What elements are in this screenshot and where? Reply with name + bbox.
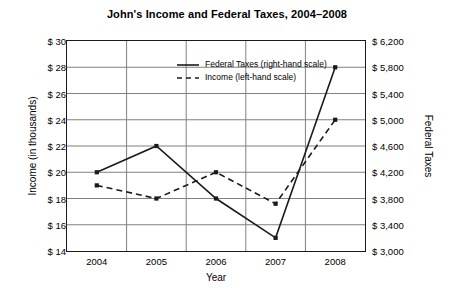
series-line-federal-taxes: [97, 67, 335, 238]
chart-legend: Federal Taxes (right-hand scale)Income (…: [176, 58, 327, 84]
dashed-line-icon: [176, 73, 200, 83]
y-axis-left-tick-label: $ 26: [6, 88, 66, 99]
y-axis-right-tick-label: $ 5,800: [372, 62, 434, 73]
data-point: [214, 170, 218, 174]
y-axis-left-tick-label: $ 30: [6, 36, 66, 47]
x-axis-tick-label: 2008: [305, 256, 365, 267]
x-axis-tick-label: 2006: [186, 256, 246, 267]
data-point: [274, 236, 278, 240]
y-axis-right-tick-label: $ 3,000: [372, 246, 434, 257]
y-axis-left-tick-label: $ 20: [6, 167, 66, 178]
legend-item: Income (left-hand scale): [176, 71, 327, 84]
data-point: [154, 196, 158, 200]
series-line-income: [97, 120, 335, 204]
chart-container: John's Income and Federal Taxes, 2004–20…: [0, 0, 454, 294]
y-axis-right-tick-label: $ 5,000: [372, 114, 434, 125]
y-axis-left-tick-label: $ 28: [6, 62, 66, 73]
data-point: [95, 170, 99, 174]
data-point: [95, 183, 99, 187]
x-axis-tick-label: 2007: [246, 256, 306, 267]
data-point: [214, 196, 218, 200]
chart-title: John's Income and Federal Taxes, 2004–20…: [0, 8, 454, 20]
y-axis-left-tick-label: $ 14: [6, 246, 66, 257]
y-axis-right-tick-label: $ 3,800: [372, 193, 434, 204]
legend-label: Income (left-hand scale): [205, 71, 296, 84]
y-axis-right-tick-label: $ 4,200: [372, 167, 434, 178]
x-axis-tick-label: 2005: [126, 256, 186, 267]
y-axis-left-tick-label: $ 16: [6, 219, 66, 230]
y-axis-right-tick-label: $ 5,400: [372, 88, 434, 99]
solid-line-icon: [176, 60, 200, 70]
y-axis-left-tick-label: $ 18: [6, 193, 66, 204]
y-axis-left-tick-label: $ 24: [6, 114, 66, 125]
legend-label: Federal Taxes (right-hand scale): [205, 58, 327, 71]
y-axis-right-tick-label: $ 4,600: [372, 141, 434, 152]
data-point: [333, 65, 337, 69]
y-axis-left-tick-label: $ 22: [6, 141, 66, 152]
legend-item: Federal Taxes (right-hand scale): [176, 58, 327, 71]
y-axis-right-tick-label: $ 3,400: [372, 219, 434, 230]
x-axis-title: Year: [66, 272, 366, 283]
x-axis-tick-label: 2004: [67, 256, 127, 267]
y-axis-right-tick-label: $ 6,200: [372, 36, 434, 47]
data-point: [154, 144, 158, 148]
data-point: [274, 202, 278, 206]
data-point: [333, 118, 337, 122]
